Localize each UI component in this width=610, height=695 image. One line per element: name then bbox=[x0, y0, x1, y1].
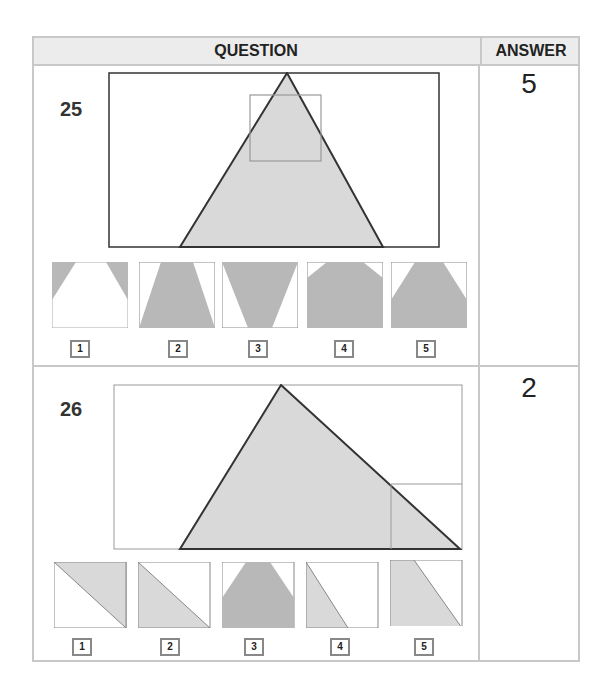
question-figure bbox=[108, 72, 442, 248]
option-figure-5[interactable] bbox=[390, 560, 466, 626]
option-figure-4[interactable] bbox=[307, 262, 383, 328]
question-number: 25 bbox=[60, 98, 82, 121]
row-divider bbox=[34, 365, 578, 367]
question-header: QUESTION bbox=[34, 38, 478, 64]
option-figure-2[interactable] bbox=[139, 262, 215, 328]
question-table: QUESTION ANSWER 25 5 1 2 3 4 5 26 2 1 2 … bbox=[32, 36, 580, 662]
column-divider bbox=[478, 64, 480, 660]
option-label-1[interactable]: 1 bbox=[72, 638, 92, 656]
option-label-1[interactable]: 1 bbox=[70, 340, 90, 358]
option-label-2[interactable]: 2 bbox=[160, 638, 180, 656]
option-figure-4[interactable] bbox=[306, 562, 382, 628]
option-label-5[interactable]: 5 bbox=[414, 638, 434, 656]
option-figure-5[interactable] bbox=[391, 262, 467, 328]
question-number: 26 bbox=[60, 398, 82, 421]
answer-header: ANSWER bbox=[480, 38, 580, 64]
option-figure-3[interactable] bbox=[222, 262, 298, 328]
option-figure-2[interactable] bbox=[138, 562, 214, 628]
answer-value: 2 bbox=[480, 372, 578, 404]
question-figure bbox=[113, 384, 463, 550]
option-label-2[interactable]: 2 bbox=[168, 340, 188, 358]
option-figure-3[interactable] bbox=[222, 562, 298, 628]
table-header: QUESTION ANSWER bbox=[34, 38, 578, 66]
answer-value: 5 bbox=[480, 68, 578, 100]
option-label-3[interactable]: 3 bbox=[244, 638, 264, 656]
option-label-4[interactable]: 4 bbox=[330, 638, 350, 656]
option-figure-1[interactable] bbox=[54, 562, 130, 628]
option-label-3[interactable]: 3 bbox=[248, 340, 268, 358]
option-label-4[interactable]: 4 bbox=[334, 340, 354, 358]
option-label-5[interactable]: 5 bbox=[416, 340, 436, 358]
option-figure-1[interactable] bbox=[52, 262, 128, 328]
